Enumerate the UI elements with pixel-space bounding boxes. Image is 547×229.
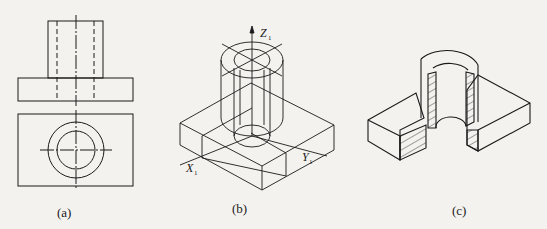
base-mid-line <box>202 108 252 136</box>
base-side-faces <box>180 123 334 190</box>
cylinder-left-hatch <box>428 72 436 128</box>
z-axis-sub: 1 <box>268 34 272 42</box>
base-top-face <box>180 83 334 166</box>
drawing-canvas: (a) Z 1 X 1 Y <box>0 0 547 229</box>
y-axis-line <box>252 136 327 156</box>
left-section-hatch <box>400 125 426 160</box>
x-axis-label: X <box>185 161 194 175</box>
figure-c-cutaway <box>368 51 530 160</box>
z-axis-arrow-icon <box>250 26 254 33</box>
y-axis-sub: 1 <box>309 158 313 166</box>
caption-c: (c) <box>452 203 466 218</box>
right-section-hatch <box>467 130 478 151</box>
bore-bottom-arc <box>436 117 466 128</box>
z-axis-label: Z <box>260 26 267 40</box>
caption-b: (b) <box>232 201 247 216</box>
cylinder-outer-arc <box>421 51 478 65</box>
base-mid-line <box>202 158 286 176</box>
left-block-top-edge <box>368 120 400 136</box>
figure-a-orthographic <box>18 15 133 190</box>
cylinder-right-hatch <box>466 72 474 126</box>
x-axis-sub: 1 <box>194 169 198 177</box>
front-view-cylinder <box>48 21 103 78</box>
right-block-top-edge <box>478 103 530 130</box>
caption-a: (a) <box>57 205 71 220</box>
cylinder-inner-arc <box>433 63 468 70</box>
